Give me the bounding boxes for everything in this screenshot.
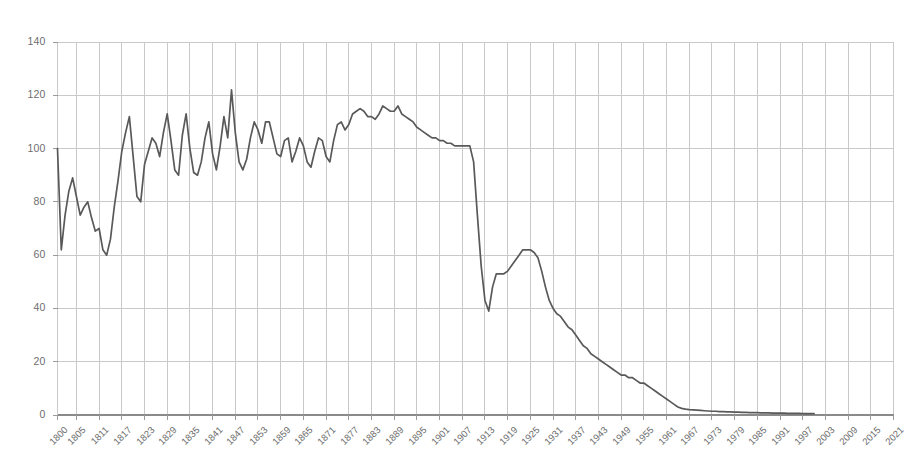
y-axis-tick-label: 60 [4,248,46,260]
chart-canvas [0,0,924,476]
grid-lines [58,42,894,415]
y-axis-tick-label: 80 [4,195,46,207]
y-axis-tick-label: 120 [4,88,46,100]
y-axis-tick-label: 40 [4,301,46,313]
tick-marks [53,42,894,420]
y-axis-tick-label: 0 [4,408,46,420]
y-axis-tick-label: 20 [4,355,46,367]
y-axis-tick-label: 100 [4,142,46,154]
y-axis-tick-label: 140 [4,35,46,47]
data-series-line [58,90,815,414]
line-chart: 020406080100120140 180018051811181718231… [0,0,924,476]
